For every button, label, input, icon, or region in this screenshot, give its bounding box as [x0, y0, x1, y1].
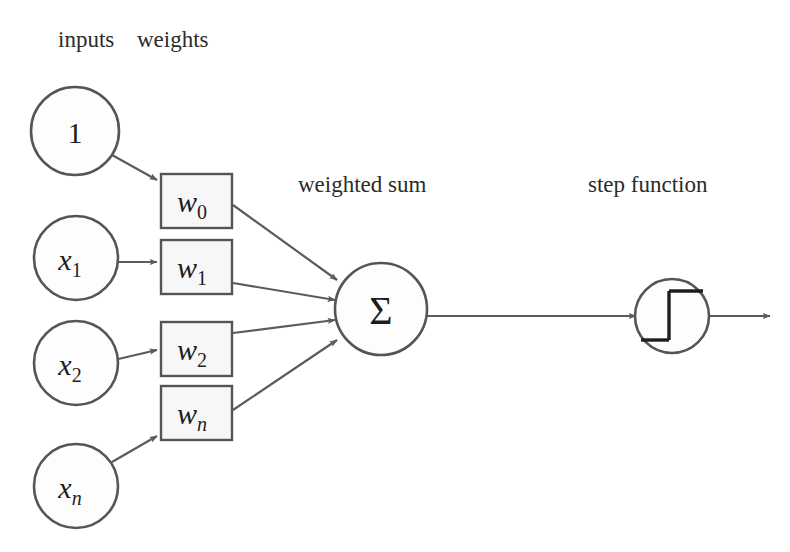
- weight-box-w2[interactable]: w2: [161, 322, 232, 376]
- summation-node[interactable]: Σ: [335, 263, 427, 355]
- input-node-x1[interactable]: x1: [34, 216, 118, 300]
- edge-wn-to-sum: [233, 340, 337, 410]
- edge-w0-to-sum: [233, 205, 337, 280]
- sigma-icon: Σ: [369, 288, 392, 333]
- input-bias-label: 1: [68, 116, 83, 149]
- input-xn-circle[interactable]: [34, 444, 118, 528]
- inputs-column-label: inputs: [58, 27, 114, 52]
- input-node-xn[interactable]: xn: [34, 444, 118, 528]
- weight-box-w0[interactable]: w0: [161, 174, 232, 228]
- weight-box-w1[interactable]: w1: [161, 240, 232, 294]
- perceptron-diagram: inputs weights weighted sum step functio…: [0, 0, 790, 552]
- edge-input-bias-to-w0: [112, 155, 157, 180]
- edge-w1-to-sum: [233, 283, 335, 300]
- edge-input-xn-to-wn: [112, 436, 157, 462]
- input-node-x2[interactable]: x2: [34, 321, 118, 405]
- edge-w2-to-sum: [233, 320, 335, 333]
- input-x2-circle[interactable]: [34, 321, 118, 405]
- input-x1-circle[interactable]: [34, 216, 118, 300]
- weighted-sum-label: weighted sum: [298, 172, 427, 197]
- weight-box-wn[interactable]: wn: [161, 386, 232, 440]
- edge-input-x2-to-w2: [114, 350, 157, 360]
- step-function-node[interactable]: [635, 279, 709, 353]
- perceptron-canvas: inputs weights weighted sum step functio…: [0, 0, 790, 552]
- input-node-bias[interactable]: 1: [31, 87, 119, 175]
- weights-column-label: weights: [137, 27, 209, 52]
- step-function-label: step function: [588, 172, 708, 197]
